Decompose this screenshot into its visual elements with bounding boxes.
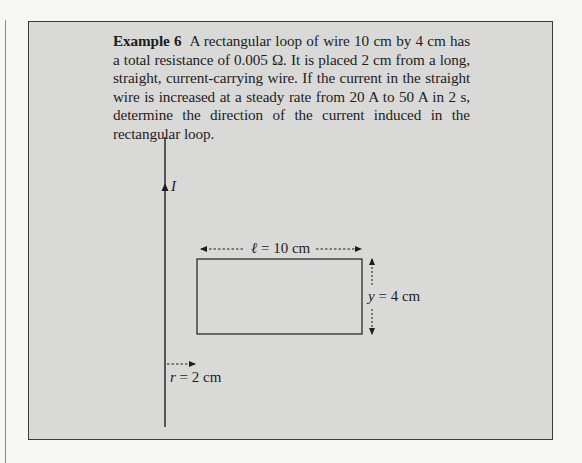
length-label: ℓ = 10 cm [251, 240, 310, 257]
wire-loop-diagram [0, 0, 582, 463]
distance-label: r = 2 cm [170, 369, 221, 386]
width-label: y = 4 cm [368, 288, 420, 305]
current-arrow-icon [162, 183, 169, 191]
distance-value: = 2 cm [176, 369, 222, 385]
current-label: I [171, 178, 176, 195]
length-value: = 10 cm [257, 240, 310, 256]
width-symbol: y [368, 288, 375, 304]
width-value: = 4 cm [375, 288, 421, 304]
rectangular-loop [197, 259, 362, 334]
current-symbol: I [171, 178, 176, 194]
